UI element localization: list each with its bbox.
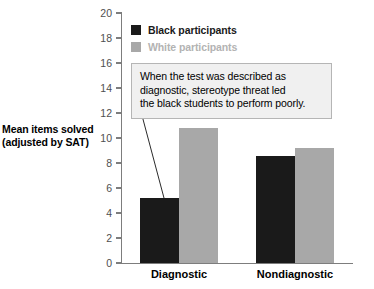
y-axis-tick-mark xyxy=(116,212,121,213)
y-axis-tick-label: 8 xyxy=(106,156,112,170)
y-axis-tick-mark xyxy=(116,137,121,138)
legend-item-black-participants: Black participants xyxy=(131,21,281,38)
y-axis-tick-label: 16 xyxy=(100,56,112,70)
y-axis-tick-label: 10 xyxy=(100,131,112,145)
bar-diagnostic-black-participants xyxy=(140,198,179,263)
y-axis-tick-label: 18 xyxy=(100,31,112,45)
y-axis-tick-mark xyxy=(116,262,121,263)
y-axis-title-line1: Mean items solved xyxy=(2,123,100,136)
annotation-line-2: diagnostic, stereotype threat led xyxy=(140,84,324,98)
bar-diagnostic-white-participants xyxy=(179,128,218,263)
chart-legend: Black participants White participants xyxy=(131,21,281,55)
legend-swatch-black-icon xyxy=(131,25,141,35)
annotation-line-3: the black students to perform poorly. xyxy=(140,97,324,111)
annotation-leader-line xyxy=(139,108,179,200)
y-axis-tick-label: 2 xyxy=(106,231,112,245)
legend-label-white-participants: White participants xyxy=(148,41,237,53)
legend-item-white-participants: White participants xyxy=(131,38,281,55)
y-axis-tick-label: 14 xyxy=(100,81,112,95)
y-axis-tick-mark xyxy=(116,37,121,38)
x-axis-label-nondiagnostic: Nondiagnostic xyxy=(225,268,365,280)
y-axis-tick-mark xyxy=(116,87,121,88)
y-axis-tick-label: 20 xyxy=(100,6,112,20)
y-axis-tick-mark xyxy=(116,162,121,163)
y-axis-tick-mark xyxy=(116,62,121,63)
x-axis-line xyxy=(121,263,353,264)
bar-chart-figure: Mean items solved (adjusted by SAT) 2018… xyxy=(0,0,374,289)
y-axis-title: Mean items solved (adjusted by SAT) xyxy=(2,123,100,149)
y-axis-line xyxy=(121,12,122,264)
bar-nondiagnostic-black-participants xyxy=(256,156,295,264)
y-axis-tick-label: 6 xyxy=(106,181,112,195)
annotation-callout: When the test was described as diagnosti… xyxy=(131,63,332,119)
legend-label-black-participants: Black participants xyxy=(148,24,237,36)
y-axis-tick-mark xyxy=(116,187,121,188)
legend-swatch-white-icon xyxy=(131,42,141,52)
bar-nondiagnostic-white-participants xyxy=(295,148,334,263)
y-axis-title-line2: (adjusted by SAT) xyxy=(2,136,100,149)
y-axis-tick-label: 12 xyxy=(100,106,112,120)
annotation-line-1: When the test was described as xyxy=(140,70,324,84)
y-axis-tick-mark xyxy=(116,237,121,238)
y-axis-tick-mark xyxy=(116,112,121,113)
y-axis-tick-mark xyxy=(116,12,121,13)
y-axis-tick-label: 4 xyxy=(106,206,112,220)
